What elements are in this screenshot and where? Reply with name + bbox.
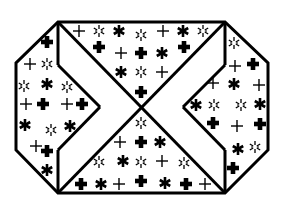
bold-cross-icon <box>135 47 147 59</box>
bold-cross-icon <box>37 98 49 110</box>
bold-asterisk-icon <box>114 25 124 37</box>
region-right <box>191 37 266 174</box>
bold-asterisk-icon <box>233 143 243 155</box>
outline-star-icon <box>136 29 146 41</box>
bold-asterisk-icon <box>116 66 126 78</box>
bold-asterisk-icon <box>178 25 188 37</box>
thin-cross-icon <box>24 58 36 70</box>
bold-asterisk-icon <box>191 99 201 111</box>
bold-asterisk-icon <box>160 177 170 189</box>
outline-star-icon <box>136 117 146 129</box>
bold-asterisk-icon <box>65 120 75 132</box>
figure-canvas <box>0 0 284 208</box>
bold-asterisk-icon <box>229 78 239 90</box>
outline-star-icon <box>46 124 56 136</box>
bold-cross-icon <box>41 145 53 157</box>
outline-star-icon <box>94 25 104 37</box>
bold-cross-icon <box>247 58 259 70</box>
outline-star-icon <box>42 58 52 70</box>
bold-asterisk-icon <box>96 178 106 190</box>
outline-star-icon <box>209 99 219 111</box>
outline-star-icon <box>198 25 208 37</box>
thin-cross-icon <box>113 178 125 190</box>
bold-cross-icon <box>135 86 147 98</box>
bold-asterisk-icon <box>20 119 30 131</box>
outline-star-icon <box>136 156 146 168</box>
thin-cross-icon <box>114 136 126 148</box>
bold-cross-icon <box>227 162 239 174</box>
octagon-band-figure <box>0 0 284 208</box>
thin-cross-icon <box>157 25 169 37</box>
thin-cross-icon <box>30 140 42 152</box>
bold-asterisk-icon <box>42 164 52 176</box>
outline-star-icon <box>136 66 146 78</box>
region-left <box>19 36 88 176</box>
thin-cross-icon <box>253 79 265 91</box>
bold-cross-icon <box>207 117 219 129</box>
outline-star-icon <box>229 37 239 49</box>
outline-star-icon <box>94 156 104 168</box>
outline-star-icon <box>236 99 246 111</box>
thin-cross-icon <box>20 98 32 110</box>
bold-asterisk-icon <box>118 155 128 167</box>
thin-cross-icon <box>231 120 243 132</box>
outline-star-icon <box>19 80 29 92</box>
fold-line <box>183 65 225 107</box>
bold-cross-icon <box>178 41 190 53</box>
bold-cross-icon <box>254 118 266 130</box>
thin-cross-icon <box>199 178 211 190</box>
bold-asterisk-icon <box>157 47 167 59</box>
bold-cross-icon <box>76 98 88 110</box>
thin-cross-icon <box>156 155 168 167</box>
bold-asterisk-icon <box>155 136 165 148</box>
fold-line <box>58 107 100 150</box>
bold-asterisk-icon <box>255 98 265 110</box>
thin-cross-icon <box>61 98 73 110</box>
thin-cross-icon <box>73 25 85 37</box>
bold-asterisk-icon <box>42 78 52 90</box>
fold-line <box>183 107 225 150</box>
bold-cross-icon <box>135 175 147 187</box>
bold-cross-icon <box>75 178 87 190</box>
outline-star-icon <box>62 81 72 93</box>
bold-cross-icon <box>135 136 147 148</box>
thin-cross-icon <box>115 47 127 59</box>
thin-cross-icon <box>156 66 168 78</box>
bold-cross-icon <box>180 178 192 190</box>
thin-cross-icon <box>229 60 241 72</box>
outline-star-icon <box>179 157 189 169</box>
outline-star-icon <box>250 141 260 153</box>
bold-cross-icon <box>93 41 105 53</box>
